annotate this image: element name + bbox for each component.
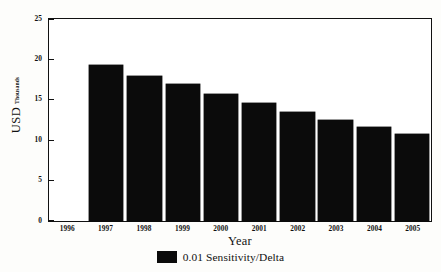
bar-2001 [242,103,276,221]
x-axis-tick-label: 1999 [163,224,201,233]
bar-slot [202,19,240,221]
x-axis-tick-labels: 1996199719981999200020012002200320042005 [48,224,432,233]
x-axis-tick-label: 2000 [202,224,240,233]
bar-2000 [204,94,238,221]
bar-1998 [127,76,161,221]
y-axis-title: USD [9,107,24,133]
bar-slot [164,19,202,221]
legend: 0.01 Sensitivity/Delta [0,251,441,263]
bar-2005 [395,134,429,221]
bar-1999 [166,84,200,221]
bar-slot [125,19,163,221]
x-axis-tick-label: 1996 [48,224,86,233]
y-axis-tick-label: 5 [38,175,42,185]
bars-layer [49,19,431,221]
bar-slot [393,19,431,221]
x-axis-tick-label: 2003 [317,224,355,233]
x-axis-tick-label: 2001 [240,224,278,233]
bar-slot [87,19,125,221]
x-axis-tick-label: 1997 [86,224,124,233]
y-axis-tick-label: 10 [35,135,42,145]
bar-slot [316,19,354,221]
bar-2004 [357,127,391,221]
y-axis-title-group: USD Thousands [0,65,33,145]
bar-1997 [89,65,123,221]
bar-slot [240,19,278,221]
y-axis-tick-label: 15 [35,94,42,104]
x-axis-tick-label: 2002 [278,224,316,233]
x-axis-tick-label: 2004 [355,224,393,233]
y-axis-subtitle: Thousands [14,77,20,104]
legend-label: 0.01 Sensitivity/Delta [183,251,285,263]
x-axis-title: Year [48,234,432,249]
legend-swatch-icon [157,251,177,263]
y-axis-tick-label: 20 [35,54,42,64]
bar-slot [278,19,316,221]
x-axis-tick-label: 1998 [125,224,163,233]
plot-area: 0510152025 [48,18,432,222]
y-axis-tick-label: 0 [38,216,42,226]
y-axis-tick-label: 25 [35,14,42,24]
bar-2003 [318,120,352,221]
chart-figure: USD Thousands 0510152025 199619971998199… [0,0,441,272]
x-axis-tick-label: 2005 [394,224,432,233]
bar-slot [49,19,87,221]
bar-slot [355,19,393,221]
bar-2002 [280,112,314,221]
